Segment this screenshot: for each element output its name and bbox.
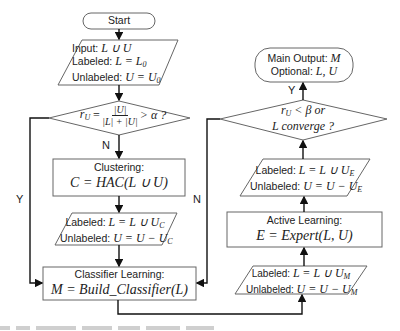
classifier-text: Classifier Learning: M = Build_Classifie… bbox=[43, 268, 196, 298]
update-c-line1-label: Labeled: bbox=[65, 216, 108, 228]
update-c-line2-label: Unlabeled: bbox=[60, 232, 113, 244]
classifier-title: Classifier Learning: bbox=[43, 268, 196, 281]
active-learning-title: Active Learning: bbox=[227, 214, 382, 227]
update-c-line1-math: L = L ∪ U bbox=[109, 215, 160, 229]
decision1-eq: = bbox=[92, 109, 100, 122]
update-m-line1-math: L = L ∪ U bbox=[293, 266, 344, 280]
update-e-line2-label: Unlabeled: bbox=[250, 180, 303, 192]
input-text: Input: L ∪ U Labeled: L = L0 Unlabeled: … bbox=[72, 42, 172, 87]
classifier-formula: M = Build_Classifier(L) bbox=[43, 281, 196, 298]
input-line2-sub: 0 bbox=[142, 60, 146, 69]
update-e-line1-math: L = L ∪ U bbox=[299, 163, 350, 177]
update-e-line2-math: U = U − U bbox=[303, 179, 357, 193]
decision1-rhs: > α ? bbox=[140, 109, 166, 122]
update-m-line2-sub: M bbox=[351, 288, 358, 297]
cropped-caption-fragment bbox=[0, 324, 300, 331]
input-line1-label: Input: bbox=[72, 42, 101, 54]
edge-label-d2-no: N bbox=[193, 193, 201, 205]
decision1-text: rU = |U| |L| + |U| > α ? bbox=[68, 104, 178, 127]
arrow-decision-yes-to-classifier bbox=[30, 118, 49, 283]
input-line3-label: Unlabeled: bbox=[72, 71, 125, 83]
update-e-line1-label: Labeled: bbox=[256, 164, 299, 176]
active-learning-formula: E = Expert(L, U) bbox=[227, 227, 382, 245]
edge-label-d1-no: N bbox=[102, 139, 110, 151]
edge-label-d2-yes: Y bbox=[288, 84, 295, 96]
input-line2-math: L = L bbox=[115, 54, 142, 68]
clustering-formula: C = HAC(L ∪ U) bbox=[53, 174, 185, 192]
output-text: Main Output: M Optional: L, U bbox=[255, 52, 353, 78]
update-e-text: Labeled: L = L ∪ UE Unlabeled: U = U − U… bbox=[250, 164, 360, 196]
input-line3-math: U = U bbox=[125, 70, 156, 84]
start-label: Start bbox=[83, 14, 155, 27]
update-m-line1-sub: M bbox=[344, 272, 351, 281]
decision2-text: rU < β or L converge ? bbox=[253, 104, 353, 133]
active-learning-text: Active Learning: E = Expert(L, U) bbox=[227, 214, 382, 245]
decision1-numerator: |U| bbox=[112, 104, 129, 116]
decision1-denominator: |L| + |U| bbox=[102, 116, 138, 127]
update-c-line1-sub: C bbox=[159, 221, 164, 230]
update-c-line2-math: U = U − U bbox=[113, 231, 167, 245]
input-line1-math: L ∪ U bbox=[101, 41, 131, 55]
input-line3-sub: 0 bbox=[157, 76, 161, 85]
edge-label-d1-yes: Y bbox=[16, 193, 23, 205]
update-m-line1-label: Labeled: bbox=[252, 268, 293, 279]
update-m-text: Labeled: L = L ∪ UM Unlabeled: U = U − U… bbox=[246, 267, 356, 299]
decision2-line1-rest: < β or bbox=[291, 103, 325, 117]
input-line2-label: Labeled: bbox=[72, 55, 115, 67]
output-line2-label: Optional: bbox=[271, 65, 316, 77]
output-line2-math: L, U bbox=[316, 64, 337, 78]
update-c-text: Labeled: L = L ∪ UC Unlabeled: U = U − U… bbox=[60, 216, 170, 248]
clustering-text: Clustering: C = HAC(L ∪ U) bbox=[53, 161, 185, 192]
output-line1-math: M bbox=[331, 51, 341, 65]
update-e-line2-sub: E bbox=[357, 185, 362, 194]
decision1-r-sub: U bbox=[84, 113, 90, 122]
output-line1-label: Main Output: bbox=[267, 52, 330, 64]
decision2-line2: L converge ? bbox=[253, 120, 353, 133]
update-c-line2-sub: C bbox=[167, 237, 172, 246]
update-m-line2-math: U = U − U bbox=[297, 282, 351, 296]
update-e-line1-sub: E bbox=[350, 169, 355, 178]
clustering-title: Clustering: bbox=[53, 161, 185, 174]
update-m-line2-label: Unlabeled: bbox=[246, 284, 297, 295]
